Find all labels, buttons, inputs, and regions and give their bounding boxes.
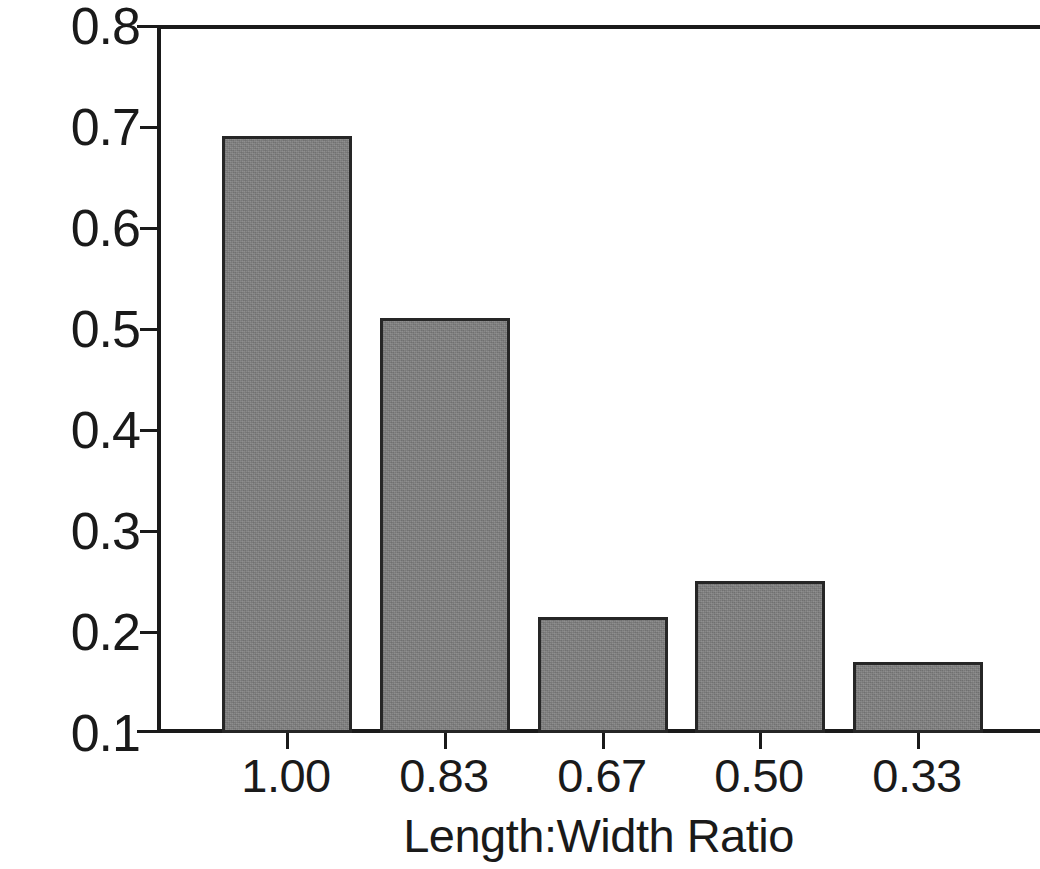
y-tick-mark [140, 631, 157, 634]
x-tick-mark [602, 733, 605, 749]
bar[interactable] [380, 318, 510, 733]
bar[interactable] [538, 617, 668, 733]
x-tick-label: 0.33 [827, 752, 1007, 799]
y-tick-label: 0.6 [0, 202, 140, 254]
bar[interactable] [695, 581, 825, 733]
y-tick-label: 0.5 [0, 303, 140, 355]
y-tick-mark [140, 227, 157, 230]
x-tick-label: 0.67 [512, 752, 692, 799]
x-tick-mark [444, 733, 447, 749]
x-tick-label: 0.83 [354, 752, 534, 799]
x-tick-mark [917, 733, 920, 749]
y-tick-label: 0.3 [0, 505, 140, 557]
y-tick-label: 0.7 [0, 101, 140, 153]
bar-chart-figure: Index of Edge Curvature 0.8 0.7 0.6 0.5 … [0, 0, 1040, 869]
x-tick-label: 0.50 [669, 752, 849, 799]
y-tick-mark [140, 126, 157, 129]
y-axis-line [157, 25, 161, 733]
y-tick-mark [140, 429, 157, 432]
y-tick-mark [140, 530, 157, 533]
plot-top-border [157, 25, 1040, 29]
x-tick-label: 1.00 [196, 752, 376, 799]
y-tick-label: 0.1 [0, 707, 140, 759]
x-tick-mark [759, 733, 762, 749]
y-tick-label: 0.2 [0, 606, 140, 658]
y-tick-mark [137, 730, 157, 733]
bar[interactable] [222, 136, 352, 733]
x-axis-title: Length:Width Ratio [157, 812, 1040, 859]
x-tick-mark [286, 733, 289, 749]
plot-area [157, 25, 1040, 733]
y-tick-label: 0.8 [0, 0, 140, 52]
y-tick-mark [137, 25, 157, 28]
bar[interactable] [853, 662, 983, 733]
y-tick-mark [140, 328, 157, 331]
y-tick-label: 0.4 [0, 404, 140, 456]
